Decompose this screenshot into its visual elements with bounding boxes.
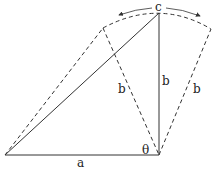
triangle-diagram: c b b b a θ [0, 0, 218, 170]
arrow-left-icon [119, 8, 152, 15]
dashed-left-outer [5, 28, 103, 155]
dashed-arc [103, 13, 211, 29]
hypotenuse-line [5, 13, 159, 155]
label-theta: θ [142, 143, 149, 157]
dashed-left-b [103, 28, 159, 155]
label-left-b: b [118, 82, 126, 96]
label-right-b: b [193, 82, 201, 96]
label-vertical-b: b [162, 74, 170, 88]
label-c: c [155, 0, 162, 14]
label-a: a [77, 156, 84, 170]
arrow-right-icon [166, 8, 200, 16]
dashed-right-b [159, 29, 211, 155]
diagram-canvas: c b b b a θ [0, 0, 218, 170]
